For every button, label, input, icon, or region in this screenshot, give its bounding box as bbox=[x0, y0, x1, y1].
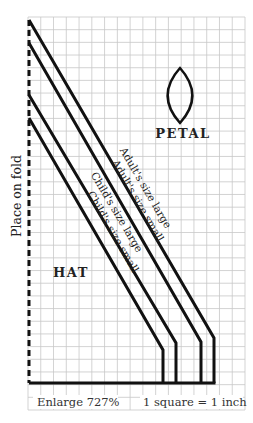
hat-label: HAT bbox=[53, 265, 89, 280]
fold-label: Place on fold bbox=[9, 155, 24, 237]
enlarge-label: Enlarge 727% bbox=[37, 395, 120, 409]
scale-label: 1 square = 1 inch bbox=[143, 395, 247, 409]
petal-shape bbox=[168, 68, 193, 123]
petal-label: PETAL bbox=[155, 126, 210, 141]
pattern-diagram: Adult's size largeAdult's size smallChil… bbox=[0, 0, 253, 423]
